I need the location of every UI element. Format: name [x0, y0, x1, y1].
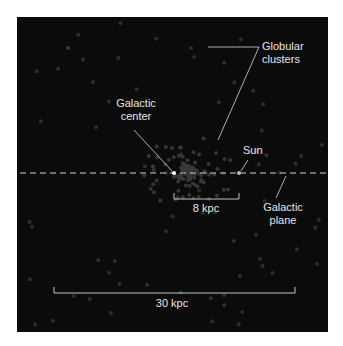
globular-clusters-leader — [208, 47, 259, 140]
galactic-center-label: Galactic center — [108, 97, 164, 122]
label-line: center — [108, 110, 164, 123]
galactic-plane-label: Galactic plane — [255, 201, 311, 226]
galactic-plane-leader — [276, 176, 286, 198]
sun-marker — [237, 171, 241, 175]
label-line: clusters — [262, 53, 304, 66]
sun-label: Sun — [243, 144, 263, 157]
scale-label-8kpc: 8 kpc — [186, 202, 226, 215]
scale-bar-30kpc — [54, 287, 295, 293]
label-line: Galactic — [255, 201, 311, 214]
globular-clusters-label: Globular clusters — [262, 40, 304, 65]
galactic-center-marker — [172, 171, 176, 175]
label-line: plane — [255, 214, 311, 227]
label-line: Galactic — [108, 97, 164, 110]
scale-label-30kpc: 30 kpc — [150, 297, 194, 310]
sun-leader — [241, 160, 248, 171]
label-line: Globular — [262, 40, 304, 53]
